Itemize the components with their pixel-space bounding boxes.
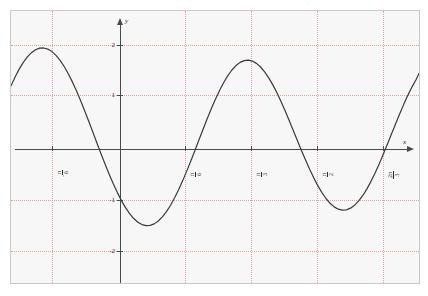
function-curve	[11, 48, 419, 226]
curve-layer	[11, 11, 419, 283]
plot-frame: x y 2 1 -1 -2 -π6 π6 π3 π2 2π3	[10, 10, 420, 284]
figure-container: x y 2 1 -1 -2 -π6 π6 π3 π2 2π3	[0, 0, 428, 296]
